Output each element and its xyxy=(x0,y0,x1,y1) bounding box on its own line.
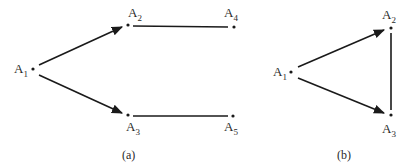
label-a-a4: A4 xyxy=(224,5,238,23)
edge-a-a1-a2 xyxy=(39,27,122,65)
node-a-a5 xyxy=(231,114,234,117)
node-b-a2 xyxy=(389,26,392,29)
node-a-a2 xyxy=(126,23,129,26)
node-a-a4 xyxy=(232,25,235,28)
caption-b: (b) xyxy=(337,148,351,162)
caption-a: (a) xyxy=(122,148,135,162)
label-b-a1: A1 xyxy=(273,64,287,82)
label-a-a2: A2 xyxy=(128,5,142,23)
edge-a-a2-a4 xyxy=(133,26,228,27)
node-b-a1 xyxy=(289,70,292,73)
label-b-a3: A3 xyxy=(382,121,396,139)
graph-a: A1 A2 A3 A4 A5 (a) xyxy=(14,5,238,162)
graph-b: A1 A2 A3 (b) xyxy=(273,7,396,162)
node-a-a3 xyxy=(126,113,129,116)
graph-figure: A1 A2 A3 A4 A5 (a) A1 A2 A3 (b) xyxy=(0,0,408,168)
label-a-a5: A5 xyxy=(224,119,238,137)
label-b-a2: A2 xyxy=(382,7,396,25)
node-a-a1 xyxy=(31,67,34,70)
node-b-a3 xyxy=(389,113,392,116)
edge-a-a1-a3 xyxy=(39,75,122,113)
label-a-a3: A3 xyxy=(126,119,140,137)
edge-b-a1-a3 xyxy=(298,78,384,113)
label-a-a1: A1 xyxy=(14,61,28,79)
edge-b-a1-a2 xyxy=(298,30,384,67)
